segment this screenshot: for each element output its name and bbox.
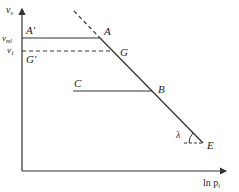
angle-arc bbox=[189, 133, 193, 143]
y-axis-label: vs bbox=[6, 4, 13, 16]
label-b: B bbox=[158, 83, 165, 95]
dashed-extension bbox=[74, 11, 100, 38]
label-lambda: λ bbox=[175, 129, 181, 140]
label-g: G bbox=[120, 46, 128, 58]
diagram-canvas: vs ln pi vml v1 A' A G' G C B E λ bbox=[0, 0, 239, 192]
tick-v-ml: vml bbox=[2, 33, 12, 44]
label-g-prime: G' bbox=[26, 53, 37, 65]
label-a-prime: A' bbox=[25, 24, 36, 36]
label-c: C bbox=[74, 77, 82, 89]
label-a: A bbox=[103, 25, 111, 37]
x-axis-label: ln pi bbox=[203, 177, 220, 189]
label-e: E bbox=[206, 139, 214, 151]
tick-v-1: v1 bbox=[7, 45, 14, 56]
